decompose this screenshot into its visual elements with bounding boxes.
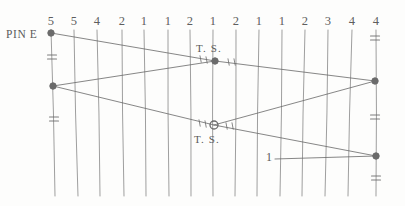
column-number-4: 2	[119, 14, 126, 29]
callout-leader	[275, 156, 376, 159]
column-number-14: 4	[349, 14, 356, 29]
survey-diagram: 554211212112344 PIN E T. S. T. S. 1	[0, 0, 405, 206]
column-number-15: 4	[373, 14, 380, 29]
ts-lower-to-right-lower	[214, 125, 376, 156]
left-mid-to-ts-lower	[53, 86, 214, 125]
station-line-3	[97, 30, 100, 196]
column-number-2: 5	[71, 14, 78, 29]
hatch-tick-1	[200, 56, 201, 62]
column-number-12: 2	[302, 14, 309, 29]
ts-lower-to-right-upper	[214, 81, 375, 125]
column-number-10: 1	[256, 14, 263, 29]
column-number-1: 5	[48, 14, 55, 29]
station-line-9	[235, 30, 236, 196]
station-line-13	[325, 30, 328, 196]
left-mid-node	[50, 83, 56, 89]
station-line-6	[168, 30, 169, 196]
hatch-tick-7	[226, 123, 227, 129]
column-number-13: 3	[325, 14, 332, 29]
column-number-11: 1	[279, 14, 286, 29]
station-line-14	[348, 30, 352, 196]
right-upper-node	[372, 78, 378, 84]
hatch-tick-3	[228, 59, 229, 65]
diagram-canvas	[0, 0, 405, 206]
column-number-8: 1	[210, 14, 217, 29]
hatch-tick-6	[205, 121, 206, 127]
station-line-4	[122, 30, 124, 196]
station-line-11	[280, 30, 282, 196]
station-line-5	[144, 30, 146, 196]
vertical-station-lines	[51, 30, 376, 196]
station-line-12	[302, 30, 305, 196]
column-number-9: 2	[233, 14, 240, 29]
pin-e-node	[48, 30, 54, 36]
label-pin-e: PIN E	[6, 28, 37, 40]
column-number-7: 2	[187, 14, 194, 29]
hatch-tick-5	[199, 120, 200, 126]
ts-upper-node	[212, 58, 218, 64]
column-number-3: 4	[94, 14, 101, 29]
station-line-7	[190, 30, 191, 196]
label-ts-upper: T. S.	[196, 42, 222, 54]
label-ts-lower: T. S.	[194, 133, 220, 145]
right-lower-node	[373, 153, 379, 159]
hatch-tick-4	[234, 59, 235, 65]
column-number-6: 1	[165, 14, 172, 29]
label-callout-one: 1	[266, 150, 272, 165]
station-line-2	[74, 30, 78, 196]
column-number-5: 1	[141, 14, 148, 29]
